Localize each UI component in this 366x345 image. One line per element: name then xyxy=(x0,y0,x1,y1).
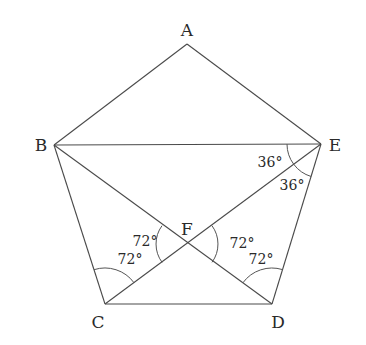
angle-label-BEC: 36° xyxy=(258,154,283,170)
vertex-label-A: A xyxy=(180,20,194,40)
vertex-label-C: C xyxy=(91,312,104,332)
segment-BC xyxy=(54,145,105,304)
angle-label-BCF: 72° xyxy=(118,251,143,267)
vertex-label-B: B xyxy=(35,135,48,155)
angle-label-EFD: 72° xyxy=(230,235,255,251)
angle-arc-D xyxy=(243,268,283,283)
segment-AB xyxy=(54,44,187,145)
vertex-label-E: E xyxy=(329,135,341,155)
angle-label-BFC: 72° xyxy=(133,233,158,249)
pentagon-svg: A B C D E F 36° 36° 72° 72° 72° 72° xyxy=(0,0,366,345)
segment-BE xyxy=(54,144,321,145)
pentagon-diagram: A B C D E F 36° 36° 72° 72° 72° 72° xyxy=(0,0,366,345)
angle-label-EDF: 72° xyxy=(249,251,274,267)
segment-BD xyxy=(54,145,272,304)
segment-CE xyxy=(105,144,321,304)
angle-arc-C xyxy=(94,268,134,283)
angle-arc-F-right xyxy=(212,226,218,263)
vertex-label-F: F xyxy=(181,219,193,239)
vertex-label-D: D xyxy=(271,312,285,332)
angle-label-CED: 36° xyxy=(280,177,305,193)
segment-AE xyxy=(187,44,321,144)
